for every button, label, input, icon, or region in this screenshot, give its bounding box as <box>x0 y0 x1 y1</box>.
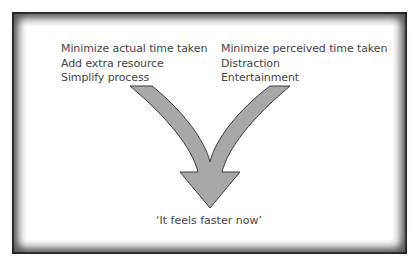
right-column: Minimize perceived time taken Distractio… <box>221 42 387 86</box>
right-column-heading: Minimize perceived time taken <box>221 42 387 57</box>
left-column-item: Simplify process <box>61 71 207 86</box>
right-column-item: Distraction <box>221 57 387 72</box>
left-column-item: Add extra resource <box>61 57 207 72</box>
outcome-label: ‘It feels faster now’ <box>156 214 262 227</box>
right-column-item: Entertainment <box>221 71 387 86</box>
left-column-heading: Minimize actual time taken <box>61 42 207 57</box>
arrow-shape <box>130 86 290 208</box>
left-column: Minimize actual time taken Add extra res… <box>61 42 207 86</box>
